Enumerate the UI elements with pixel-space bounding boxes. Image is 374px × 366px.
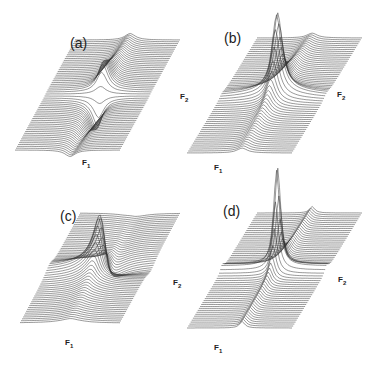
axis-label-f2-d: F2 bbox=[338, 275, 346, 286]
panel-b: (b) F2 F1 bbox=[187, 0, 374, 183]
figure: (a) F2 F1 (b) F2 F1 (c) F2 F1 (d) F2 F1 bbox=[0, 0, 374, 366]
panel-c: (c) F2 F1 bbox=[0, 183, 187, 366]
surface-plot-c bbox=[0, 183, 187, 366]
panel-label-d: (d) bbox=[223, 203, 240, 219]
surface-plot-a bbox=[0, 0, 187, 183]
panel-d: (d) F2 F1 bbox=[187, 183, 374, 366]
axis-label-f1-d: F1 bbox=[214, 343, 222, 354]
panel-label-a: (a) bbox=[70, 35, 87, 51]
axis-label-f1-c: F1 bbox=[65, 338, 73, 349]
axis-label-f1-a: F1 bbox=[82, 158, 90, 169]
axis-label-f2-b: F2 bbox=[337, 90, 345, 101]
surface-plot-b bbox=[187, 0, 374, 183]
panel-label-c: (c) bbox=[60, 208, 76, 224]
panel-a: (a) F2 F1 bbox=[0, 0, 187, 183]
axis-label-f2-c: F2 bbox=[173, 278, 181, 289]
axis-label-f1-b: F1 bbox=[214, 163, 222, 174]
panel-label-b: (b) bbox=[224, 30, 241, 46]
